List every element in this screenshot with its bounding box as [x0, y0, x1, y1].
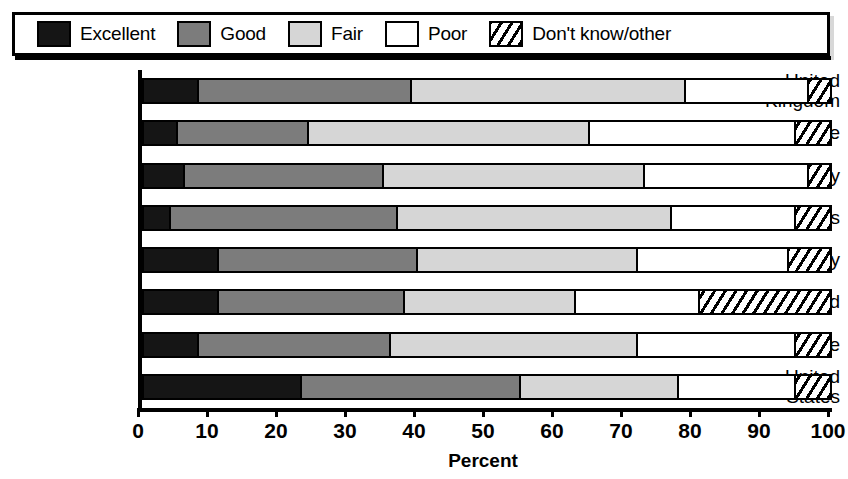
legend-swatch-good-icon — [177, 21, 211, 47]
legend-label-dont-know-other: Don't know/other — [532, 23, 671, 45]
bar-row — [142, 332, 832, 358]
bar-row — [142, 163, 832, 189]
x-axis-tick-label: 80 — [678, 419, 701, 443]
legend-item-excellent: Excellent — [37, 21, 155, 47]
bar-segment-excellent — [144, 122, 178, 144]
bar-segment-excellent — [144, 376, 302, 398]
x-axis-tick — [137, 408, 140, 417]
x-axis-tick-label: 20 — [264, 419, 287, 443]
legend-swatch-excellent-icon — [37, 21, 71, 47]
legend-label-excellent: Excellent — [80, 23, 155, 45]
legend-swatch-dont-know-other-icon — [489, 21, 523, 47]
stacked-bar-chart: United KingdomFranceGermanyNetherlandsIt… — [0, 62, 848, 479]
x-axis-tick-label: 100 — [810, 419, 845, 443]
bar-segment-poor — [576, 291, 699, 313]
bar-segment-good — [199, 80, 412, 102]
bar-segment-excellent — [144, 249, 219, 271]
bar-segment-good — [171, 207, 397, 229]
bar-segment-poor — [590, 122, 796, 144]
bar-segment-good — [185, 165, 384, 187]
legend-swatch-fair-icon — [288, 21, 322, 47]
bar-segment-dont-know-other — [796, 122, 830, 144]
bar-row — [142, 289, 832, 315]
x-axis-tick-label: 50 — [471, 419, 494, 443]
legend-item-poor: Poor — [385, 21, 467, 47]
legend-swatch-poor-icon — [385, 21, 419, 47]
bar-segment-dont-know-other — [796, 376, 830, 398]
bar-segment-poor — [686, 80, 809, 102]
bar-segment-good — [219, 291, 404, 313]
legend-item-fair: Fair — [288, 21, 363, 47]
x-axis-title: Percent — [138, 450, 828, 472]
bar-segment-fair — [521, 376, 679, 398]
bar-segment-good — [219, 249, 418, 271]
bar-segment-dont-know-other — [809, 80, 830, 102]
bar-segment-excellent — [144, 165, 185, 187]
legend-item-dont-know-other: Don't know/other — [489, 21, 671, 47]
bar-segment-poor — [638, 334, 796, 356]
bar-segment-dont-know-other — [809, 165, 830, 187]
x-axis-tick — [413, 408, 416, 417]
chart-legend: Excellent Good Fair Poor Don't know/othe… — [12, 12, 830, 56]
x-axis-tick — [827, 408, 830, 417]
bar-segment-poor — [679, 376, 796, 398]
x-axis-tick — [206, 408, 209, 417]
bar-segment-excellent — [144, 80, 199, 102]
bar-segment-poor — [645, 165, 810, 187]
bar-row — [142, 120, 832, 146]
bar-row — [142, 247, 832, 273]
bar-segment-good — [178, 122, 308, 144]
x-axis-tick-label: 90 — [747, 419, 770, 443]
bar-row — [142, 78, 832, 104]
bar-segment-poor — [672, 207, 795, 229]
x-axis-tick — [620, 408, 623, 417]
bar-segment-fair — [391, 334, 638, 356]
x-axis-tick-label: 60 — [540, 419, 563, 443]
x-axis-tick — [758, 408, 761, 417]
x-axis-tick-label: 10 — [195, 419, 218, 443]
bar-segment-dont-know-other — [789, 249, 830, 271]
x-axis-tick — [344, 408, 347, 417]
bar-segment-fair — [309, 122, 590, 144]
bar-segment-good — [199, 334, 391, 356]
bar-segment-dont-know-other — [796, 334, 830, 356]
bar-segment-excellent — [144, 291, 219, 313]
bar-segment-good — [302, 376, 522, 398]
x-axis-tick-label: 0 — [132, 419, 144, 443]
bar-segment-fair — [398, 207, 672, 229]
bar-segment-fair — [418, 249, 638, 271]
x-axis-tick — [275, 408, 278, 417]
bar-segment-fair — [384, 165, 645, 187]
bar-segment-fair — [412, 80, 686, 102]
bars-container — [142, 70, 832, 408]
bar-segment-excellent — [144, 334, 199, 356]
bar-row — [142, 374, 832, 400]
bar-segment-excellent — [144, 207, 171, 229]
legend-label-good: Good — [220, 23, 266, 45]
x-axis-tick — [551, 408, 554, 417]
plot-area — [138, 70, 832, 412]
bar-segment-poor — [638, 249, 789, 271]
x-axis-tick — [689, 408, 692, 417]
x-axis-tick — [482, 408, 485, 417]
x-axis-tick-label: 40 — [402, 419, 425, 443]
legend-label-fair: Fair — [331, 23, 363, 45]
legend-label-poor: Poor — [428, 23, 467, 45]
legend-item-good: Good — [177, 21, 266, 47]
x-axis-tick-label: 70 — [609, 419, 632, 443]
bar-segment-dont-know-other — [700, 291, 830, 313]
bar-segment-fair — [405, 291, 577, 313]
bar-row — [142, 205, 832, 231]
bar-segment-dont-know-other — [796, 207, 830, 229]
x-axis-tick-label: 30 — [333, 419, 356, 443]
